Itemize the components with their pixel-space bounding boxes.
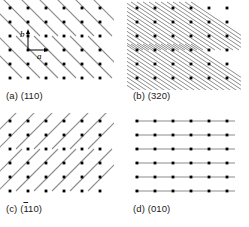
- trace-lines-group: [127, 2, 241, 90]
- panel-c-plot: [0, 113, 114, 203]
- panel-d-caption-prefix: (d): [133, 203, 145, 214]
- panel-d-caption: (d) (010): [133, 203, 170, 214]
- panel-b-miller-index: (320): [148, 90, 171, 101]
- panel-d-plot: [127, 113, 241, 203]
- panel-c-caption: (c) (110): [6, 203, 42, 214]
- lattice-points-group: [136, 120, 229, 193]
- trace-lines-group: [135, 121, 235, 191]
- vector-b-label: b: [20, 29, 25, 39]
- trace-lines-group: [0, 0, 114, 78]
- trace-lines-group: [0, 113, 114, 191]
- panel-a-plot: b a: [0, 0, 114, 90]
- vector-a-label: a: [37, 51, 42, 61]
- panel-d-miller-index: (010): [148, 203, 171, 214]
- panel-a-110: b a (a) (110): [0, 0, 114, 113]
- panel-a-miller-index: (110): [21, 90, 43, 101]
- panel-a-caption: (a) (110): [6, 90, 43, 101]
- panel-d-svg: [127, 113, 241, 203]
- panel-c-svg: [0, 113, 114, 203]
- panel-b-320: (b) (320): [127, 0, 241, 113]
- miller-overbar-digit: 1: [23, 203, 28, 214]
- lattice-plane-figure: b a (a) (110): [0, 0, 249, 227]
- vector-b-arrowhead: [26, 29, 30, 34]
- panel-c-caption-prefix: (c): [6, 203, 17, 214]
- panel-b-caption: (b) (320): [133, 90, 170, 101]
- panel-c-1bar10: (c) (110): [0, 113, 114, 226]
- panel-a-svg: b a: [0, 0, 114, 90]
- panel-c-miller-index: (110): [20, 203, 42, 214]
- panel-b-plot: [127, 0, 241, 90]
- panel-d-010: (d) (010): [127, 113, 241, 226]
- panel-a-caption-prefix: (a): [6, 90, 18, 101]
- panel-b-svg: [127, 0, 241, 90]
- panel-b-caption-prefix: (b): [133, 90, 145, 101]
